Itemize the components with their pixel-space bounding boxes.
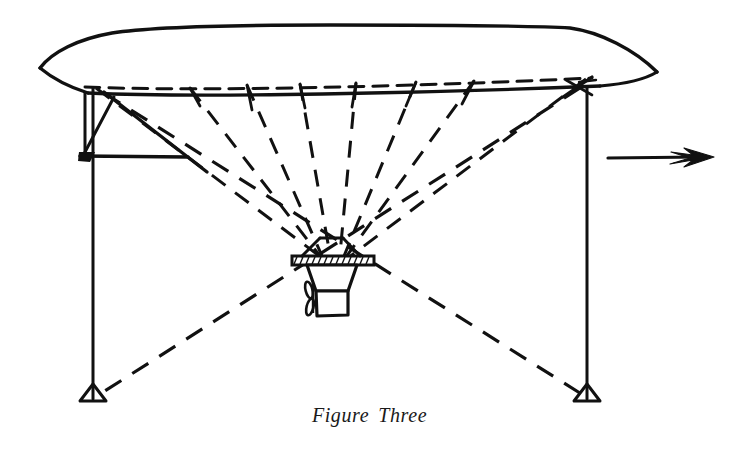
figure-caption: FigureThree [0, 404, 739, 427]
envelope-top-outline [40, 25, 657, 72]
envelope-bottom-outline-left [40, 68, 88, 93]
far-keel-line-dashed [85, 78, 592, 89]
left-bracket-diagonal-inner [84, 97, 114, 154]
direction-arrow [608, 148, 714, 167]
suspension-cable-4 [300, 84, 330, 255]
left-mast-bracket [78, 92, 207, 172]
suspension-cable-2 [190, 88, 320, 256]
figure-caption-word-figure: Figure [312, 404, 369, 427]
figure-caption-word-three: Three [378, 404, 427, 427]
airship-envelope [40, 25, 657, 93]
gondola-assembly [292, 238, 374, 316]
suspension-cable-7 [346, 81, 474, 257]
gondola-cabin [316, 291, 348, 316]
guy-wire-left-top-to-right-base [104, 93, 583, 395]
suspension-cable-5 [340, 83, 356, 254]
figure-container: FigureThree [0, 0, 739, 453]
figure-three-illustration [0, 0, 739, 453]
mast-footings [80, 384, 600, 401]
left-bracket-horizontal [80, 156, 188, 157]
envelope-keel-lines [85, 78, 600, 95]
envelope-bottom-outline-right [600, 72, 657, 86]
suspension-cable-fan [96, 79, 586, 258]
propeller [304, 281, 316, 316]
gondola-upper-body [307, 265, 357, 291]
